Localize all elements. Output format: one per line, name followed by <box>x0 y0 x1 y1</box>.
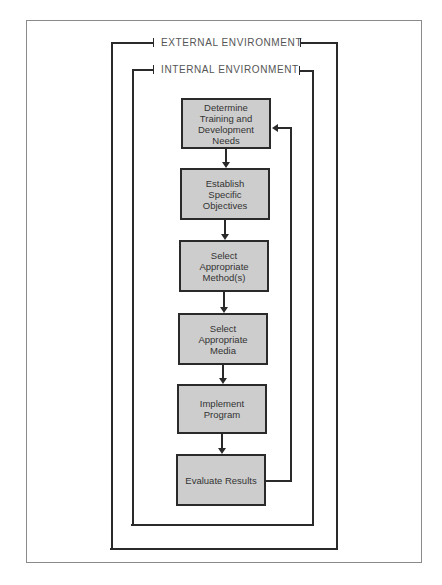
step-select-methods: Select Appropriate Method(s) <box>179 240 269 292</box>
arrow-down-icon <box>219 378 227 384</box>
step-determine-needs: Determine Training and Development Needs <box>181 98 271 149</box>
arrow-down-icon <box>222 162 230 168</box>
step-establish-objectives: Establish Specific Objectives <box>180 168 270 220</box>
arrow-left-icon <box>272 124 278 132</box>
step-implement-program: Implement Program <box>177 384 267 434</box>
arrow-down-icon <box>221 234 229 240</box>
arrow-down-icon <box>220 307 228 313</box>
external-environment-label: EXTERNAL ENVIRONMENT <box>161 37 302 49</box>
internal-environment-label: INTERNAL ENVIRONMENT <box>161 64 299 76</box>
arrow-down-icon <box>218 448 226 454</box>
step-evaluate-results: Evaluate Results <box>176 454 266 506</box>
step-select-media: Select Appropriate Media <box>178 313 268 365</box>
